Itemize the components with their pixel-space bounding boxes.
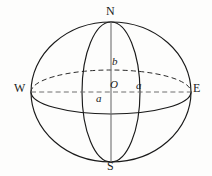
label-north-pole: N: [106, 5, 115, 17]
label-semi-major-axis-below: a: [96, 93, 102, 104]
spheroid-drawing: [0, 0, 212, 176]
label-semi-minor-axis: b: [112, 56, 118, 67]
label-east-point: E: [193, 82, 200, 94]
spheroid-figure: N S W E O a a b: [0, 0, 212, 176]
label-south-pole: S: [107, 160, 114, 172]
label-origin-point: O: [110, 79, 118, 90]
label-semi-major-axis-right: a: [136, 80, 142, 91]
label-west-point: W: [14, 82, 25, 94]
